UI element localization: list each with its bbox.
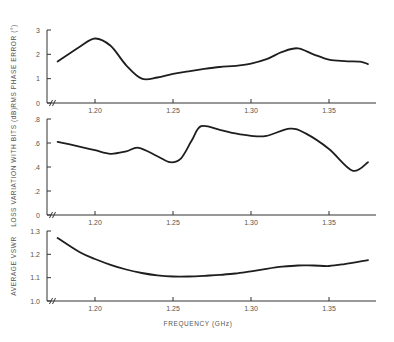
x-tick-label: 1.25 <box>166 305 180 312</box>
x-tick-label: 1.25 <box>166 107 180 114</box>
x-tick-label: 1.20 <box>88 107 102 114</box>
y-axis-title: AVERAGE VSWR <box>10 236 17 295</box>
y-tick-label: 1.1 <box>30 274 40 281</box>
panel-rms-phase-error: 01231.201.251.301.35RMS PHASE ERROR (°) <box>10 24 376 114</box>
data-curve <box>58 238 368 277</box>
data-curve <box>58 126 368 171</box>
y-tick-label: .4 <box>34 164 40 171</box>
y-tick-label: 0 <box>36 212 40 219</box>
y-axis-title: RMS PHASE ERROR (°) <box>10 24 18 108</box>
y-tick-label: 1 <box>36 75 40 82</box>
y-tick-label: 1.0 <box>30 298 40 305</box>
panel-loss-variation: 0.2.4.6.81.201.251.301.35LOSS VARIATION … <box>10 107 376 226</box>
x-tick-label: 1.35 <box>322 219 336 226</box>
y-tick-label: 3 <box>36 27 40 34</box>
y-tick-label: 2 <box>36 51 40 58</box>
x-tick-label: 1.30 <box>244 219 258 226</box>
y-tick-label: 0 <box>36 100 40 107</box>
x-tick-label: 1.25 <box>166 219 180 226</box>
x-tick-label: 1.30 <box>244 107 258 114</box>
x-tick-label: 1.30 <box>244 305 258 312</box>
x-tick-label: 1.20 <box>88 305 102 312</box>
stacked-line-charts: 01231.201.251.301.35RMS PHASE ERROR (°) … <box>0 0 394 342</box>
x-axis-title: FREQUENCY (GHz) <box>164 320 233 328</box>
y-tick-label: .2 <box>34 188 40 195</box>
data-curve <box>58 38 368 79</box>
y-tick-label: 1.2 <box>30 251 40 258</box>
x-tick-label: 1.35 <box>322 305 336 312</box>
y-tick-label: .8 <box>34 116 40 123</box>
panel-average-vswr: 1.01.11.21.31.201.251.301.35AVERAGE VSWR <box>10 228 376 313</box>
x-tick-label: 1.35 <box>322 107 336 114</box>
y-tick-label: .6 <box>34 140 40 147</box>
x-tick-label: 1.20 <box>88 219 102 226</box>
y-axis-title: LOSS VARIATION WITH BITS (dB) <box>10 107 18 226</box>
y-tick-label: 1.3 <box>30 228 40 235</box>
